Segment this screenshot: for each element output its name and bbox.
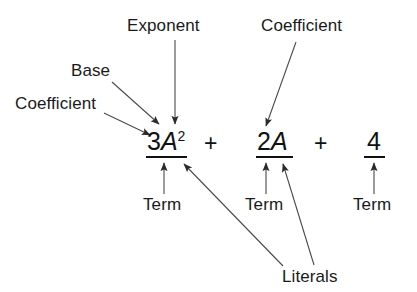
label-term-3: Term bbox=[353, 195, 391, 214]
label-term-2: Term bbox=[245, 195, 283, 214]
term3-constant: 4 bbox=[367, 127, 381, 155]
term1-coefficient: 3 bbox=[147, 127, 161, 155]
term2-base: A bbox=[271, 127, 288, 155]
arrow-coefficient-left bbox=[104, 113, 150, 135]
operator-plus-2: + bbox=[314, 131, 327, 156]
label-base: Base bbox=[71, 61, 110, 80]
expression-term-3: 4 bbox=[367, 128, 381, 155]
label-coefficient-left: Coefficient bbox=[15, 94, 96, 113]
term-2-underline bbox=[256, 156, 293, 158]
arrow-literals-term2 bbox=[283, 164, 314, 265]
term-1-underline bbox=[146, 156, 187, 158]
arrow-coefficient-right bbox=[266, 42, 296, 126]
term1-exponent: 2 bbox=[178, 128, 186, 144]
label-term-1: Term bbox=[143, 195, 181, 214]
label-exponent: Exponent bbox=[127, 16, 200, 35]
algebraic-expression-diagram: Coefficient Base Exponent Coefficient Te… bbox=[0, 0, 417, 292]
operator-plus-1: + bbox=[204, 131, 217, 156]
label-literals: Literals bbox=[282, 267, 338, 286]
arrow-base bbox=[112, 82, 159, 124]
arrow-literals-term1 bbox=[184, 164, 283, 266]
expression-term-1: 3A2 bbox=[147, 128, 185, 155]
expression-term-2: 2A bbox=[257, 128, 288, 155]
term1-base: A bbox=[161, 127, 178, 155]
label-coefficient-right: Coefficient bbox=[261, 16, 342, 35]
term-3-underline bbox=[364, 156, 385, 158]
term2-coefficient: 2 bbox=[257, 127, 271, 155]
